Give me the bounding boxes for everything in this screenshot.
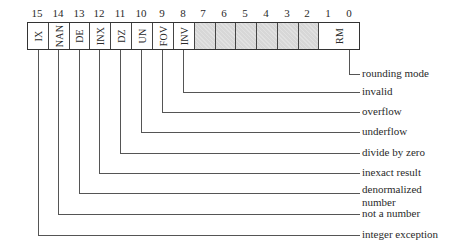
cell-label-dz: DZ — [116, 29, 127, 43]
leader-horizontal-un — [141, 132, 360, 133]
bit-number-14: 14 — [48, 7, 68, 19]
cell-rm: RM — [319, 23, 359, 49]
cell-nan: NAN — [49, 23, 70, 49]
leader-vertical-dz — [120, 50, 121, 154]
label-inexact-result: inexact result — [362, 166, 421, 179]
label-underflow: underflow — [362, 125, 407, 138]
bit-number-1: 1 — [318, 7, 338, 19]
cell-reserved-2 — [299, 23, 320, 49]
cell-label-ix: IX — [33, 31, 44, 42]
cell-label-inx: INX — [95, 27, 106, 45]
bit-number-8: 8 — [173, 7, 193, 19]
leader-vertical-fov — [162, 50, 163, 113]
cell-un: UN — [132, 23, 153, 49]
fp-status-register-diagram: 15 14 13 12 11 10 9 8 7 6 5 4 3 2 1 0 IX… — [0, 0, 451, 251]
cell-inv: INV — [174, 23, 195, 49]
bit-number-6: 6 — [214, 7, 234, 19]
bit-number-7: 7 — [193, 7, 213, 19]
bit-number-4: 4 — [256, 7, 276, 19]
label-invalid: invalid — [362, 85, 393, 98]
cell-label-inv: INV — [178, 27, 189, 45]
leader-horizontal-de — [79, 193, 360, 194]
cell-dz: DZ — [111, 23, 132, 49]
cell-label-un: UN — [136, 29, 147, 44]
cell-label-fov: FOV — [157, 26, 168, 47]
leader-vertical-un — [141, 50, 142, 133]
leader-vertical-rm — [349, 50, 350, 75]
leader-horizontal-inx — [99, 173, 360, 174]
cell-ix: IX — [28, 23, 49, 49]
bit-number-3: 3 — [277, 7, 297, 19]
cell-reserved-3 — [278, 23, 299, 49]
cell-label-rm: RM — [334, 28, 345, 44]
leader-horizontal-inv — [183, 92, 360, 93]
cell-label-de: DE — [74, 29, 85, 43]
label-denormalized-line1: denormalized — [362, 183, 422, 196]
leader-vertical-nan — [58, 50, 59, 215]
cell-reserved-4 — [257, 23, 278, 49]
leader-vertical-inx — [99, 50, 100, 174]
register-box: IX NAN DE INX DZ UN FOV INV RM — [27, 22, 360, 50]
cell-reserved-7 — [195, 23, 216, 49]
leader-horizontal-fov — [162, 112, 360, 113]
cell-fov: FOV — [153, 23, 174, 49]
leader-vertical-inv — [183, 50, 184, 93]
bit-number-13: 13 — [69, 7, 89, 19]
bit-number-15: 15 — [27, 7, 47, 19]
bit-number-12: 12 — [89, 7, 109, 19]
bit-number-9: 9 — [152, 7, 172, 19]
bit-number-11: 11 — [110, 7, 130, 19]
bit-number-2: 2 — [297, 7, 317, 19]
cell-inx: INX — [90, 23, 111, 49]
cell-label-nan: NAN — [53, 25, 64, 47]
bit-number-5: 5 — [235, 7, 255, 19]
leader-horizontal-ix — [38, 235, 360, 236]
cell-reserved-5 — [236, 23, 257, 49]
leader-horizontal-dz — [120, 153, 360, 154]
leader-vertical-ix — [38, 50, 39, 236]
label-rounding-mode: rounding mode — [362, 67, 429, 80]
leader-vertical-de — [79, 50, 80, 194]
bit-number-10: 10 — [131, 7, 151, 19]
leader-horizontal-nan — [58, 214, 360, 215]
label-divide-by-zero: divide by zero — [362, 146, 425, 159]
cell-de: DE — [70, 23, 91, 49]
bit-number-0: 0 — [339, 7, 359, 19]
leader-horizontal-rm — [349, 74, 360, 75]
label-not-a-number: not a number — [362, 207, 420, 220]
cell-reserved-6 — [216, 23, 237, 49]
label-overflow: overflow — [362, 105, 402, 118]
label-integer-exception: integer exception — [362, 228, 438, 241]
